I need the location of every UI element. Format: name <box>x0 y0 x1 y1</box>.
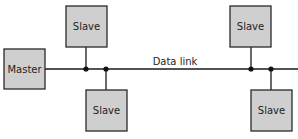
master-node: Master <box>4 49 45 89</box>
slave-label: Slave <box>93 105 120 116</box>
junction-dot <box>248 66 253 71</box>
junction-dot <box>103 66 108 71</box>
data-link-label: Data link <box>153 56 198 67</box>
slave-label: Slave <box>258 105 285 116</box>
master-label: Master <box>7 64 42 75</box>
slave-label: Slave <box>73 21 100 32</box>
slave-label: Slave <box>237 21 264 32</box>
junction-dot <box>83 66 88 71</box>
bus-diagram: Master Slave Slave Slave Slave Data link <box>0 0 298 139</box>
slave-node-bottom-left: Slave <box>86 90 127 131</box>
slave-node-bottom-right: Slave <box>251 90 292 131</box>
slave-node-top-left: Slave <box>66 6 107 47</box>
junction-dot <box>268 66 273 71</box>
slave-node-top-right: Slave <box>230 6 271 47</box>
